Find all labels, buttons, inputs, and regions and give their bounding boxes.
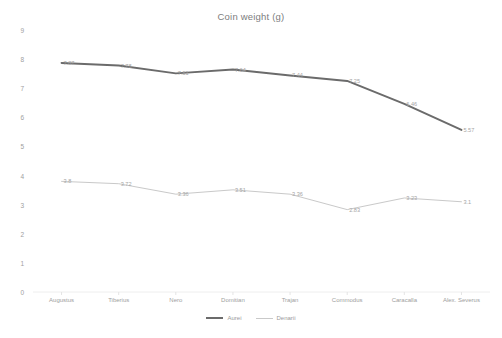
data-point-label: 3.23	[406, 195, 417, 201]
legend-item-aurei[interactable]: Aurei	[206, 315, 241, 321]
data-point-label: 7.87	[64, 60, 75, 66]
legend-label-denarii: Denarii	[277, 315, 296, 321]
x-axis-tick-label: Augustus	[49, 297, 74, 303]
y-axis-tick-label: 9	[20, 27, 24, 34]
chart-container: Coin weight (g) 9876543210 7.877.787.517…	[0, 0, 502, 338]
x-axis-tick-label: Tiberius	[108, 297, 129, 303]
x-axis-tick-label: Caracalla	[392, 297, 417, 303]
data-point-label: 3.36	[178, 191, 189, 197]
y-axis: 9876543210	[0, 30, 30, 292]
x-axis-tick-label: Nero	[169, 297, 182, 303]
x-axis-tick-label: Alex. Severus	[443, 297, 480, 303]
data-point-label: 7.44	[292, 72, 303, 78]
data-point-label: 3.51	[235, 187, 246, 193]
legend-line-icon-denarii	[256, 318, 273, 319]
chart-legend: Aurei Denarii	[0, 315, 502, 321]
data-point-label: 3.36	[292, 191, 303, 197]
data-point-label: 6.46	[406, 101, 417, 107]
plot-area: 7.877.787.517.647.447.256.465.573.83.723…	[33, 30, 490, 292]
y-axis-tick-label: 0	[20, 289, 24, 296]
y-axis-tick-label: 1	[20, 259, 24, 266]
data-point-label: 3.1	[463, 199, 471, 205]
x-axis-tick-label: Domitian	[221, 297, 245, 303]
legend-item-denarii[interactable]: Denarii	[256, 315, 296, 321]
data-point-label: 7.64	[235, 67, 246, 73]
legend-label-aurei: Aurei	[227, 315, 241, 321]
x-axis: AugustusTiberiusNeroDomitianTrajanCommod…	[33, 297, 490, 311]
series-lines	[33, 30, 490, 292]
y-axis-tick-label: 8	[20, 56, 24, 63]
legend-line-icon-aurei	[206, 317, 223, 319]
data-point-label: 7.78	[121, 63, 132, 69]
y-axis-tick-label: 2	[20, 230, 24, 237]
data-point-label: 3.72	[121, 181, 132, 187]
y-axis-tick-label: 4	[20, 172, 24, 179]
data-point-label: 7.51	[178, 70, 189, 76]
y-axis-tick-label: 5	[20, 143, 24, 150]
data-point-label: 3.8	[64, 178, 72, 184]
y-axis-tick-label: 7	[20, 85, 24, 92]
data-point-label: 2.83	[349, 207, 360, 213]
y-axis-tick-label: 3	[20, 201, 24, 208]
x-axis-tick-label: Trajan	[282, 297, 299, 303]
data-point-label: 7.25	[349, 78, 360, 84]
data-point-label: 5.57	[463, 127, 474, 133]
series-line-aurei	[62, 63, 462, 130]
x-axis-tick-label: Commodus	[332, 297, 363, 303]
chart-title: Coin weight (g)	[0, 11, 502, 22]
y-axis-tick-label: 6	[20, 114, 24, 121]
